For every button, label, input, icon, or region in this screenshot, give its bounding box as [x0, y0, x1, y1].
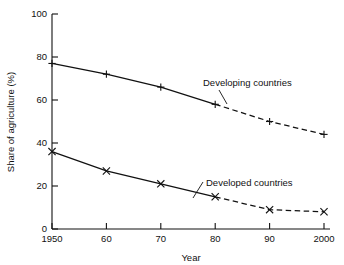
leader-line-developed — [193, 182, 203, 198]
data-point-marker — [157, 84, 164, 91]
series-1 — [48, 60, 327, 138]
y-tick-label: 80 — [36, 51, 47, 62]
x-axis-title: Year — [181, 252, 200, 263]
x-axis-tick-labels: 1950607080902000 — [41, 233, 334, 244]
annotations-group: Developing countries Developed countries — [193, 77, 293, 198]
y-axis-tick-labels: 020406080100 — [31, 8, 47, 234]
x-tick-label: 70 — [156, 233, 167, 244]
data-point-marker — [212, 101, 219, 108]
y-tick-label: 100 — [31, 8, 47, 19]
data-point-marker — [320, 208, 327, 215]
leader-line-developing — [219, 90, 227, 104]
x-axis-ticks — [52, 223, 324, 229]
y-axis-ticks — [52, 14, 58, 229]
series-label-developed: Developed countries — [206, 177, 293, 188]
data-point-marker — [266, 118, 273, 125]
chart-container: 020406080100 Share of agriculture (%) 19… — [0, 0, 344, 265]
y-tick-label: 60 — [36, 94, 47, 105]
x-tick-label: 60 — [101, 233, 112, 244]
y-tick-label: 40 — [36, 137, 47, 148]
x-tick-label: 1950 — [41, 233, 62, 244]
data-point-marker — [103, 71, 110, 78]
data-point-marker — [320, 131, 327, 138]
x-tick-label: 2000 — [313, 233, 334, 244]
x-tick-label: 80 — [210, 233, 221, 244]
data-point-marker — [48, 60, 55, 67]
series-label-developing: Developing countries — [203, 77, 292, 88]
y-axis-title: Share of agriculture (%) — [5, 72, 16, 172]
line-chart: 020406080100 Share of agriculture (%) 19… — [0, 0, 344, 265]
y-tick-label: 20 — [36, 180, 47, 191]
x-axis: 1950607080902000 Year — [41, 223, 334, 263]
series-line-solid — [52, 152, 215, 197]
x-tick-label: 90 — [264, 233, 275, 244]
series-line-solid — [52, 63, 215, 104]
y-axis: 020406080100 Share of agriculture (%) — [5, 8, 58, 234]
